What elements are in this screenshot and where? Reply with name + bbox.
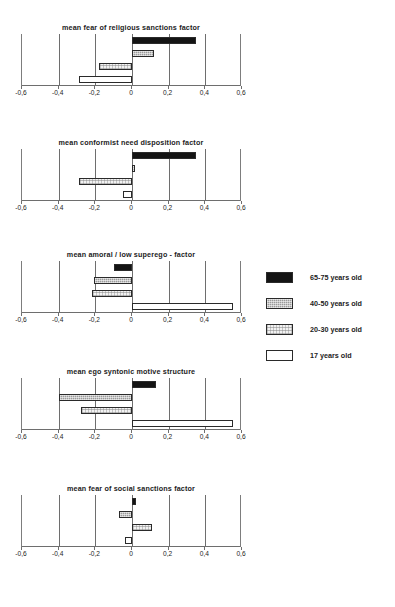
axis-tick-label: -0,4 xyxy=(52,89,63,96)
plot-area xyxy=(21,495,241,547)
gridline xyxy=(205,495,206,547)
axis-tick-label: -0,6 xyxy=(15,89,26,96)
legend-swatch xyxy=(266,298,293,309)
gridline xyxy=(95,261,96,313)
axis-tick-label: 0,4 xyxy=(200,89,209,96)
bar xyxy=(132,50,154,57)
axis-tick-label: 0,6 xyxy=(236,316,245,323)
axis-tick-label: 0,2 xyxy=(163,550,172,557)
gridline xyxy=(59,378,60,430)
axis-tick-label: -0,2 xyxy=(89,433,100,440)
gridline xyxy=(59,34,60,86)
bar xyxy=(119,511,132,518)
x-axis: -0,6-0,4-0,200,20,40,6 xyxy=(21,313,241,327)
axis-tick-label: 0,2 xyxy=(163,433,172,440)
chart-panel: mean amoral / low superego - factor-0,6-… xyxy=(0,249,262,327)
x-axis: -0,6-0,4-0,200,20,40,6 xyxy=(21,547,241,561)
chart-panel: mean conformist need disposition factor-… xyxy=(0,137,262,215)
legend-item-label: 20-30 years old xyxy=(310,325,362,334)
plot-area xyxy=(21,34,241,86)
bar xyxy=(81,407,132,414)
axis-tick-label: 0,2 xyxy=(163,316,172,323)
chart-title: mean amoral / low superego - factor xyxy=(0,249,262,261)
legend-item-label: 65-75 years old xyxy=(310,273,362,282)
axis-tick-label: -0,6 xyxy=(15,550,26,557)
gridline xyxy=(95,378,96,430)
axis-tick-label: 0 xyxy=(129,89,133,96)
chart-panel: mean fear of religious sanctions factor-… xyxy=(0,22,262,100)
bar xyxy=(99,63,132,70)
gridline xyxy=(59,495,60,547)
axis-tick-label: 0,4 xyxy=(200,316,209,323)
legend-item-label: 40-50 years old xyxy=(310,299,362,308)
bar xyxy=(125,537,132,544)
chart-title: mean fear of social sanctions factor xyxy=(0,483,262,495)
legend-item: 20-30 years old xyxy=(266,316,394,342)
bar xyxy=(132,37,196,44)
bar xyxy=(132,165,135,172)
x-axis: -0,6-0,4-0,200,20,40,6 xyxy=(21,201,241,215)
axis-tick-label: 0,6 xyxy=(236,433,245,440)
gridline xyxy=(59,261,60,313)
axis-tick-label: -0,6 xyxy=(15,433,26,440)
bar xyxy=(79,178,132,185)
axis-tick-label: 0 xyxy=(129,204,133,211)
gridline xyxy=(169,495,170,547)
bar xyxy=(132,420,233,427)
axis-tick-label: 0,6 xyxy=(236,89,245,96)
axis-tick-label: -0,4 xyxy=(52,316,63,323)
legend-item: 40-50 years old xyxy=(266,290,394,316)
bar xyxy=(114,264,132,271)
legend-item: 17 years old xyxy=(266,342,394,368)
legend-swatch xyxy=(266,324,293,335)
chart-title: mean conformist need disposition factor xyxy=(0,137,262,149)
axis-tick-label: -0,4 xyxy=(52,204,63,211)
gridline xyxy=(205,149,206,201)
gridline xyxy=(59,149,60,201)
axis-tick-label: 0 xyxy=(129,316,133,323)
axis-tick-label: -0,4 xyxy=(52,433,63,440)
axis-tick-label: 0,6 xyxy=(236,204,245,211)
bar xyxy=(132,381,156,388)
axis-tick-label: -0,2 xyxy=(89,204,100,211)
axis-tick-label: -0,2 xyxy=(89,89,100,96)
bar xyxy=(59,394,132,401)
chart-panel: mean ego syntonic motive structure-0,6-0… xyxy=(0,366,262,444)
axis-tick-label: 0 xyxy=(129,433,133,440)
axis-tick-label: 0 xyxy=(129,550,133,557)
legend-swatch xyxy=(266,272,293,283)
bar xyxy=(79,76,132,83)
axis-tick-label: 0,2 xyxy=(163,204,172,211)
x-axis: -0,6-0,4-0,200,20,40,6 xyxy=(21,86,241,100)
chart-panel: mean fear of social sanctions factor-0,6… xyxy=(0,483,262,561)
axis-tick-label: 0,4 xyxy=(200,433,209,440)
legend-item-label: 17 years old xyxy=(310,351,352,360)
axis-tick-label: -0,2 xyxy=(89,316,100,323)
axis-tick-label: 0,2 xyxy=(163,89,172,96)
chart-title: mean ego syntonic motive structure xyxy=(0,366,262,378)
axis-tick-label: -0,6 xyxy=(15,204,26,211)
bar xyxy=(123,191,132,198)
legend-swatch xyxy=(266,350,293,361)
chart-title: mean fear of religious sanctions factor xyxy=(0,22,262,34)
gridline xyxy=(95,149,96,201)
bar xyxy=(92,290,132,297)
bar xyxy=(132,303,233,310)
x-axis: -0,6-0,4-0,200,20,40,6 xyxy=(21,430,241,444)
gridline xyxy=(95,495,96,547)
plot-area xyxy=(21,261,241,313)
axis-tick-label: 0,4 xyxy=(200,550,209,557)
legend-item: 65-75 years old xyxy=(266,264,394,290)
bar xyxy=(132,498,136,505)
axis-tick-label: 0,4 xyxy=(200,204,209,211)
axis-tick-label: -0,2 xyxy=(89,550,100,557)
plot-area xyxy=(21,378,241,430)
axis-tick-label: -0,6 xyxy=(15,316,26,323)
bar xyxy=(94,277,133,284)
gridline xyxy=(205,34,206,86)
plot-area xyxy=(21,149,241,201)
axis-tick-label: -0,4 xyxy=(52,550,63,557)
bar xyxy=(132,152,196,159)
bar xyxy=(132,524,152,531)
axis-tick-label: 0,6 xyxy=(236,550,245,557)
